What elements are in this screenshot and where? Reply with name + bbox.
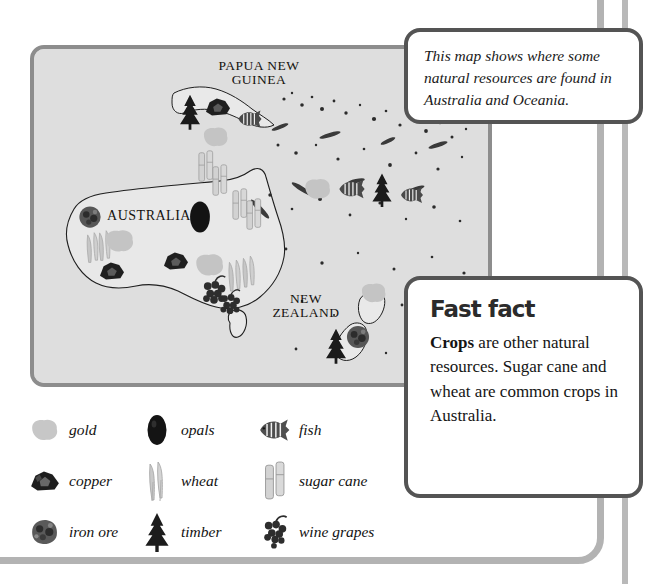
legend-item-wine-grapes[interactable]: wine grapes [258, 513, 388, 551]
legend-item-timber[interactable]: timber [140, 513, 258, 551]
grape-cluster-icon [258, 513, 292, 551]
fast-fact-lead-word: Crops [430, 333, 474, 352]
legend-label: opals [181, 421, 215, 439]
map-label-australia: AUSTRALIA [79, 209, 219, 223]
legend-label: iron ore [69, 523, 118, 541]
sugar-cane-icon [258, 462, 292, 500]
iron-ore-rock-icon [28, 513, 62, 551]
legend-label: sugar cane [299, 472, 367, 490]
fast-fact-body: Crops are other natural resources. Sugar… [430, 331, 623, 428]
map-label-papua-new-guinea: PAPUA NEW GUINEA [184, 59, 334, 87]
legend-item-wheat[interactable]: wheat [140, 462, 258, 500]
legend-item-gold[interactable]: gold [28, 411, 140, 449]
map-description-text: This map shows where some natural resour… [424, 45, 625, 111]
legend-item-opals[interactable]: opals [140, 411, 258, 449]
legend-label: timber [181, 523, 221, 541]
legend-item-sugar-cane[interactable]: sugar cane [258, 462, 388, 500]
gold-nugget-icon [28, 411, 62, 449]
legend-label: fish [299, 421, 321, 439]
wheat-stalks-icon [140, 462, 174, 500]
legend-item-iron-ore[interactable]: iron ore [28, 513, 140, 551]
map-label-new-zealand: NEW ZEALAND [256, 292, 356, 320]
legend-label: gold [69, 421, 97, 439]
copper-rock-icon [28, 462, 62, 500]
legend-item-copper[interactable]: copper [28, 462, 140, 500]
legend-label: wine grapes [299, 523, 374, 541]
fish-icon [258, 411, 292, 449]
opal-stone-icon [140, 411, 174, 449]
legend-item-fish[interactable]: fish [258, 411, 388, 449]
map-description-callout: This map shows where some natural resour… [404, 28, 643, 124]
map-legend: gold opals [28, 404, 388, 557]
legend-label: wheat [181, 472, 218, 490]
page-root: PAPUA NEW GUINEA AUSTRALIA NEW ZEALAND T… [0, 0, 651, 584]
legend-label: copper [69, 472, 112, 490]
pine-tree-icon [140, 513, 174, 551]
fast-fact-callout: Fast fact Crops are other natural resour… [404, 276, 643, 498]
fast-fact-title: Fast fact [430, 296, 623, 322]
